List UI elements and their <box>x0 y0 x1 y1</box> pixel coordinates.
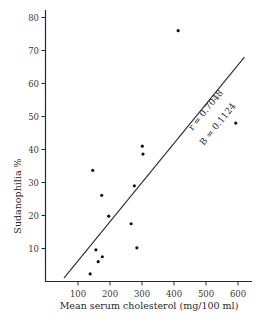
y-tick-label: 50 <box>28 112 39 122</box>
y-axis-label: Sudanophilia % <box>12 158 23 233</box>
data-point <box>91 169 94 172</box>
y-ticks: 1020304050607080 <box>28 13 45 254</box>
x-axis-label: Mean serum cholesterol (mg/100 ml) <box>60 300 239 311</box>
data-point <box>234 122 237 125</box>
x-tick-label: 200 <box>102 289 118 299</box>
x-tick-label: 400 <box>166 289 182 299</box>
data-point <box>89 272 92 275</box>
data-point <box>177 29 180 32</box>
x-tick-label: 100 <box>70 289 86 299</box>
x-tick-label: 600 <box>230 289 246 299</box>
y-tick-label: 70 <box>28 46 39 56</box>
y-tick-label: 20 <box>28 211 39 221</box>
data-point <box>133 184 136 187</box>
x-tick-label: 300 <box>134 289 150 299</box>
data-point <box>107 215 110 218</box>
y-tick-label: 60 <box>28 79 39 89</box>
data-point <box>135 246 138 249</box>
y-tick-label: 10 <box>28 244 39 254</box>
data-point <box>97 260 100 263</box>
data-point <box>130 222 133 225</box>
y-tick-label: 40 <box>28 145 39 155</box>
data-point <box>94 248 97 251</box>
data-point <box>141 153 144 156</box>
y-tick-label: 80 <box>28 13 39 23</box>
data-point <box>141 145 144 148</box>
data-points <box>89 29 238 275</box>
x-ticks: 100200300400500600 <box>70 282 246 300</box>
y-tick-label: 30 <box>28 178 39 188</box>
x-tick-label: 500 <box>198 289 214 299</box>
axes <box>45 10 252 282</box>
data-point <box>101 255 104 258</box>
scatter-chart: 1020304050607080 100200300400500600 Mean… <box>0 0 264 323</box>
data-point <box>100 194 103 197</box>
